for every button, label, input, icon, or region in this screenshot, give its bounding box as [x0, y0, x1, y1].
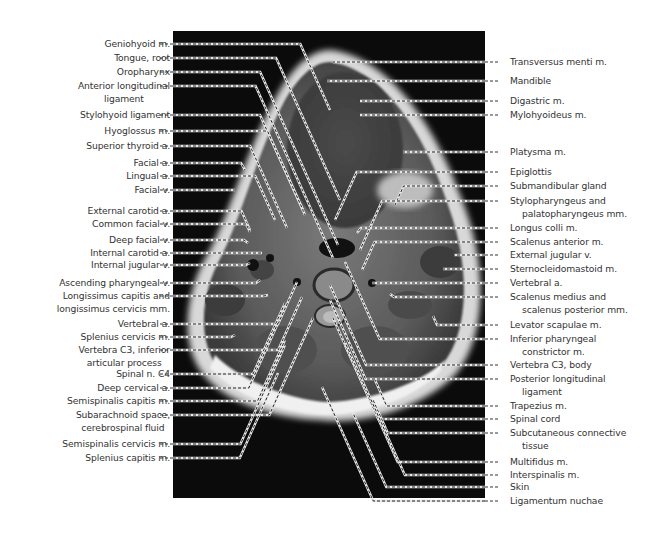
label-internal-jugular-v: Internal jugular v.: [91, 258, 170, 271]
label-hyoglossus-m: Hyoglossus m.: [104, 124, 170, 137]
label-splenius-capitis-m: Splenius capitis m.: [85, 451, 170, 464]
label-text: Splenius capitis m.: [85, 452, 170, 463]
label-text: Splenius cervicis m.: [81, 331, 170, 342]
label-text: Anterior longitudinal: [78, 80, 170, 91]
label-common-facial-v: Common facial v.: [92, 217, 170, 230]
label-text: Internal carotid a.: [90, 247, 170, 258]
label-spinal-n-c4: Spinal n. C4: [116, 367, 170, 380]
label-text: Spinal n. C4: [116, 368, 170, 379]
label-text: Superior thyroid a.: [86, 140, 170, 151]
label-text: Multifidus m.: [510, 456, 568, 467]
label-text: Skin: [510, 481, 529, 492]
label-text: Scalenus medius and: [510, 291, 606, 302]
label-text-line2: cerebrospinal fluid: [76, 421, 170, 434]
label-longus-colli-m: Longus colli m.: [510, 221, 577, 234]
label-text: Geniohyoid m.: [104, 38, 170, 49]
left-scm: [205, 284, 245, 316]
label-semispinalis-capitis-m: Semispinalis capitis m.: [67, 394, 170, 407]
label-digastric-m: Digastric m.: [510, 94, 564, 107]
label-text: Spinal cord: [510, 413, 560, 424]
label-text: Subarachnoid space,: [76, 409, 170, 420]
label-text: Digastric m.: [510, 95, 564, 106]
anatomy-figure: Geniohyoid m.Tongue, rootOropharynxAnter…: [0, 0, 655, 538]
label-text-line2: ligament: [78, 92, 170, 105]
label-splenius-cervicis-m: Splenius cervicis m.: [81, 330, 170, 343]
label-posterior-longitudinal: Posterior longitudinalligament: [510, 372, 606, 398]
label-vertebra-c3-body: Vertebra C3, body: [510, 358, 592, 371]
label-text: Transversus menti m.: [510, 56, 607, 67]
tongue-region: [287, 72, 403, 228]
labels-right: Transversus menti m.MandibleDigastric m.…: [500, 0, 655, 538]
label-subarachnoid-space: Subarachnoid space,cerebrospinal fluid: [76, 408, 170, 434]
label-ascending-pharyngeal-v: Ascending pharyngeal v.: [59, 276, 170, 289]
label-text: Posterior longitudinal: [510, 373, 606, 384]
right-scm: [420, 246, 460, 278]
label-text: Vertebral a.: [118, 318, 170, 329]
label-text: Common facial v.: [92, 218, 170, 229]
label-text: Longus colli m.: [510, 222, 577, 233]
label-lingual-a: Lingual a.: [126, 169, 170, 182]
label-text: External jugular v.: [510, 249, 592, 260]
label-stylopharyngeus-and: Stylopharyngeus andpalatopharyngeus mm.: [510, 194, 627, 220]
label-inferior-pharyngeal: Inferior pharyngealconstrictor m.: [510, 332, 596, 358]
label-transversus-menti-m: Transversus menti m.: [510, 55, 607, 68]
label-text: Submandibular gland: [510, 180, 607, 191]
label-text: Inferior pharyngeal: [510, 333, 596, 344]
label-text: Sternocleidomastoid m.: [510, 263, 617, 274]
label-text: Facial v.: [134, 184, 170, 195]
label-text: Vertebra C3, body: [510, 359, 592, 370]
label-levator-scapulae-m: Levator scapulae m.: [510, 318, 601, 331]
label-superior-thyroid-a: Superior thyroid a.: [86, 139, 170, 152]
label-anterior-longitudinal: Anterior longitudinalligament: [78, 79, 170, 105]
label-text-line2: longissimus cervicis mm.: [57, 302, 170, 315]
label-text: Semispinalis cervicis m.: [62, 438, 170, 449]
label-geniohyoid-m: Geniohyoid m.: [104, 37, 170, 50]
left-jugular: [247, 259, 259, 271]
label-text: Epiglottis: [510, 166, 552, 177]
label-text: Lingual a.: [126, 170, 170, 181]
label-vertebral-a: Vertebral a.: [118, 317, 170, 330]
label-epiglottis: Epiglottis: [510, 165, 552, 178]
label-text: Interspinalis m.: [510, 469, 579, 480]
label-text: Facial a.: [134, 157, 170, 168]
label-text: Stylohyoid ligament: [80, 109, 170, 120]
label-text: Mandible: [510, 75, 551, 86]
label-facial-v: Facial v.: [134, 183, 170, 196]
label-mylohyoideus-m: Mylohyoideus m.: [510, 108, 586, 121]
leader-longissimus-capitis-and: [173, 295, 268, 296]
label-text: Semispinalis capitis m.: [67, 395, 170, 406]
label-multifidus-m: Multifidus m.: [510, 455, 568, 468]
label-tongue-root: Tongue, root: [114, 51, 170, 64]
label-trapezius-m: Trapezius m.: [510, 399, 567, 412]
label-text: Mylohyoideus m.: [510, 109, 586, 120]
label-oropharynx: Oropharynx: [117, 65, 170, 78]
label-longissimus-capitis-and: Longissimus capitis andlongissimus cervi…: [57, 289, 170, 315]
label-text: External carotid a.: [88, 205, 170, 216]
label-text: Platysma m.: [510, 146, 566, 157]
label-text-line2: tissue: [510, 439, 626, 452]
left-carotid: [266, 254, 274, 262]
label-text-line2: palatopharyngeus mm.: [510, 207, 627, 220]
label-facial-a: Facial a.: [134, 156, 170, 169]
label-spinal-cord: Spinal cord: [510, 412, 560, 425]
label-platysma-m: Platysma m.: [510, 145, 566, 158]
label-text: Trapezius m.: [510, 400, 567, 411]
label-text-line2: ligament: [510, 385, 606, 398]
label-text: Ascending pharyngeal v.: [59, 277, 170, 288]
label-ligamentum-nuchae: Ligamentum nuchae: [510, 494, 603, 507]
label-text: Scalenus anterior m.: [510, 236, 603, 247]
label-vertebral-a: Vertebral a.: [510, 276, 562, 289]
label-external-carotid-a: External carotid a.: [88, 204, 170, 217]
label-skin: Skin: [510, 480, 529, 493]
label-deep-facial-v: Deep facial v.: [109, 233, 170, 246]
label-deep-cervical-a: Deep cervical a.: [97, 381, 170, 394]
label-text: Oropharynx: [117, 66, 170, 77]
label-subcutaneous-connective: Subcutaneous connectivetissue: [510, 426, 626, 452]
label-semispinalis-cervicis-m: Semispinalis cervicis m.: [62, 437, 170, 450]
label-text: Hyoglossus m.: [104, 125, 170, 136]
label-scalenus-anterior-m: Scalenus anterior m.: [510, 235, 603, 248]
label-stylohyoid-ligament: Stylohyoid ligament: [80, 108, 170, 121]
label-text: Internal jugular v.: [91, 259, 170, 270]
label-vertebra-c3-inferior: Vertebra C3, inferiorarticular process: [79, 343, 170, 369]
label-text: Subcutaneous connective: [510, 427, 626, 438]
